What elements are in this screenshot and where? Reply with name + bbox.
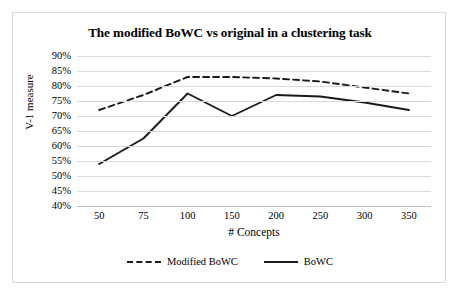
gridline — [77, 71, 431, 72]
gridline — [77, 176, 431, 177]
legend-swatch-dashed — [127, 261, 161, 263]
legend-swatch-solid — [264, 261, 298, 263]
x-axis-tick-label: 75 — [123, 210, 163, 221]
legend-item[interactable]: Modified BoWC — [127, 256, 238, 267]
x-axis-tick-label: 150 — [212, 210, 252, 221]
gridline — [77, 101, 431, 102]
y-axis-title: V-1 measure — [23, 42, 35, 162]
gridline — [77, 146, 431, 147]
chart-title: The modified BoWC vs original in a clust… — [13, 25, 447, 41]
y-axis-tick-label: 50% — [25, 171, 71, 181]
x-axis-tick-label: 200 — [256, 210, 296, 221]
chart-container: The modified BoWC vs original in a clust… — [12, 12, 446, 283]
x-axis-tick-label: 100 — [168, 210, 208, 221]
x-axis-tick-label: 250 — [300, 210, 340, 221]
x-axis-title: # Concepts — [77, 226, 431, 238]
gridline — [77, 131, 431, 132]
series-line-bowc — [99, 94, 409, 165]
x-axis-tick-label: 50 — [79, 210, 119, 221]
legend-label: BoWC — [304, 256, 333, 267]
legend-label: Modified BoWC — [167, 256, 238, 267]
x-axis-tick-label: 350 — [389, 210, 429, 221]
plot-area — [77, 56, 431, 206]
gridline — [77, 161, 431, 162]
x-axis-tick-label: 300 — [345, 210, 385, 221]
y-axis-tick-label: 45% — [25, 186, 71, 196]
legend-item[interactable]: BoWC — [264, 256, 333, 267]
chart-legend: Modified BoWCBoWC — [13, 256, 447, 267]
gridline — [77, 116, 431, 117]
gridline — [77, 86, 431, 87]
x-axis-line — [77, 206, 431, 207]
y-axis-tick-label: 40% — [25, 201, 71, 211]
gridline — [77, 56, 431, 57]
gridline — [77, 191, 431, 192]
